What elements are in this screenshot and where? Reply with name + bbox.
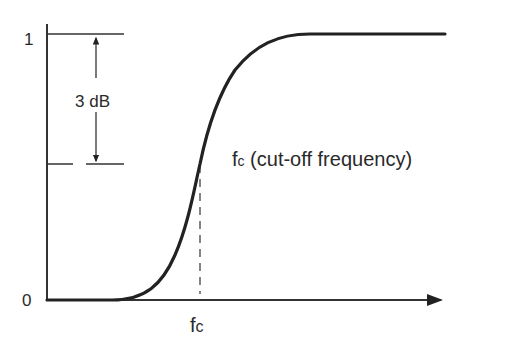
y-tick-0: 0 xyxy=(22,291,31,310)
filter-response-diagram: 3 dB 1 0 fc (cut-off frequency) fc xyxy=(0,0,510,351)
3db-label: 3 dB xyxy=(75,92,110,111)
y-tick-1: 1 xyxy=(24,30,33,49)
x-tick-fc: fc xyxy=(190,314,204,336)
cutoff-frequency-label: fc (cut-off frequency) xyxy=(232,148,412,170)
